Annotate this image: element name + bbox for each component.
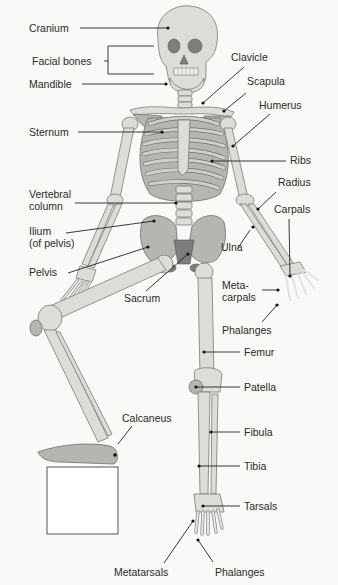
label-sternum: Sternum [29,126,69,138]
label-sacrum: Sacrum [124,292,160,304]
label-calcaneus: Calcaneus [122,412,172,424]
label-pelvis: Pelvis [29,266,57,278]
label-vertebral-column: Vertebral column [29,188,71,212]
label-carpals: Carpals [274,203,310,215]
label-facial-bones: Facial bones [32,55,92,67]
label-ulna: Ulna [221,241,243,253]
cervical-spine [178,90,192,108]
label-ilium: Ilium (of pelvis) [29,225,75,249]
label-tibia: Tibia [244,460,266,472]
label-fibula: Fibula [244,426,273,438]
label-femur: Femur [244,346,274,358]
skeleton-diagram: .b { fill: #dcdcd8; stroke: #7a7a78; str… [0,0,338,585]
label-ribs: Ribs [290,154,311,166]
skull [157,6,217,93]
right-leg [189,263,224,534]
label-tarsals: Tarsals [244,500,277,512]
vertebral-column [176,186,192,225]
label-radius: Radius [278,176,311,188]
label-humerus: Humerus [259,99,302,111]
label-scapula: Scapula [247,75,285,87]
label-cranium: Cranium [29,22,69,34]
block [47,467,118,534]
label-metacarpals: Meta- carpals [222,279,256,303]
label-clavicle: Clavicle [231,51,268,63]
label-metatarsals: Metatarsals [114,566,168,578]
label-phalanges-foot: Phalanges [215,566,265,578]
label-phalanges-hand: Phalanges [222,324,272,336]
label-mandible: Mandible [29,78,72,90]
label-patella: Patella [244,381,276,393]
